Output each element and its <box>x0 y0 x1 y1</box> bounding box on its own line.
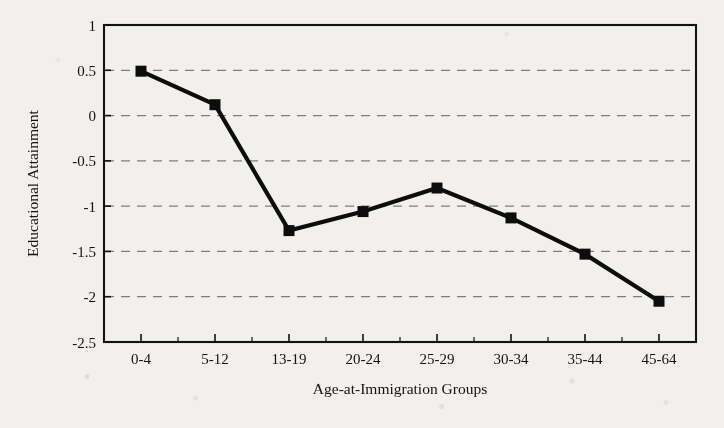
data-point-marker <box>432 183 443 194</box>
data-point-marker <box>506 212 517 223</box>
x-tick-label: 45-64 <box>642 351 677 367</box>
chart-figure: 10.50-0.5-1-1.5-2-2.50-45-1213-1920-2425… <box>0 0 724 428</box>
y-tick-label: 1 <box>89 18 97 34</box>
data-point-marker <box>210 99 221 110</box>
y-tick-label: -1 <box>84 199 97 215</box>
plot-frame <box>104 25 696 342</box>
y-tick-label: -2 <box>84 289 97 305</box>
x-tick-label: 13-19 <box>272 351 307 367</box>
y-tick-label: 0.5 <box>77 63 96 79</box>
y-tick-label: -0.5 <box>72 153 96 169</box>
line-chart: 10.50-0.5-1-1.5-2-2.50-45-1213-1920-2425… <box>0 0 724 428</box>
x-tick-label: 35-44 <box>568 351 603 367</box>
x-tick-label: 25-29 <box>420 351 455 367</box>
y-axis-title: Educational Attainment <box>24 109 41 256</box>
data-point-marker <box>654 296 665 307</box>
data-point-marker <box>358 206 369 217</box>
x-tick-label: 20-24 <box>346 351 381 367</box>
x-axis-title: Age-at-Immigration Groups <box>313 380 487 397</box>
x-tick-label: 30-34 <box>494 351 529 367</box>
x-tick-label: 5-12 <box>201 351 229 367</box>
data-point-marker <box>284 225 295 236</box>
y-tick-label: -2.5 <box>72 335 96 351</box>
y-tick-label: -1.5 <box>72 244 96 260</box>
data-point-marker <box>580 249 591 260</box>
y-tick-label: 0 <box>89 108 97 124</box>
data-point-marker <box>136 66 147 77</box>
x-tick-label: 0-4 <box>131 351 151 367</box>
